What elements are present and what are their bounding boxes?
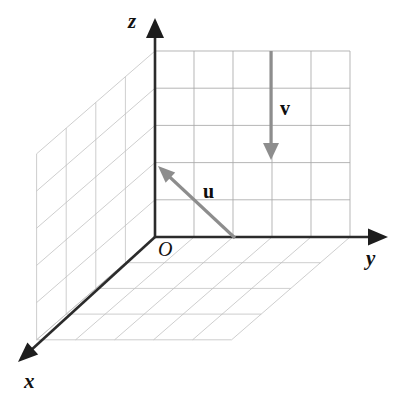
y-axis-label: y bbox=[363, 246, 376, 270]
z-axis-arrowhead-icon bbox=[146, 18, 164, 38]
z-axis-label: z bbox=[127, 9, 137, 33]
vector-u-label: u bbox=[203, 180, 214, 202]
vectors-group bbox=[158, 51, 279, 238]
origin-label: O bbox=[158, 238, 172, 260]
x-axis-label: x bbox=[23, 369, 35, 393]
y-axis-arrowhead-icon bbox=[368, 229, 388, 246]
diagram-canvas: z y x O u v bbox=[0, 0, 405, 411]
yz-plane-grid bbox=[155, 51, 350, 237]
xz-plane-grid bbox=[37, 51, 155, 340]
vector-v-label: v bbox=[280, 97, 290, 119]
labels-group: z y x O u v bbox=[23, 9, 376, 393]
vector-v-arrowhead-icon bbox=[263, 143, 279, 160]
xy-plane-grid bbox=[37, 237, 350, 340]
coordinate-diagram-figure: z y x O u v bbox=[0, 0, 405, 411]
vector-u-shaft bbox=[167, 175, 235, 239]
